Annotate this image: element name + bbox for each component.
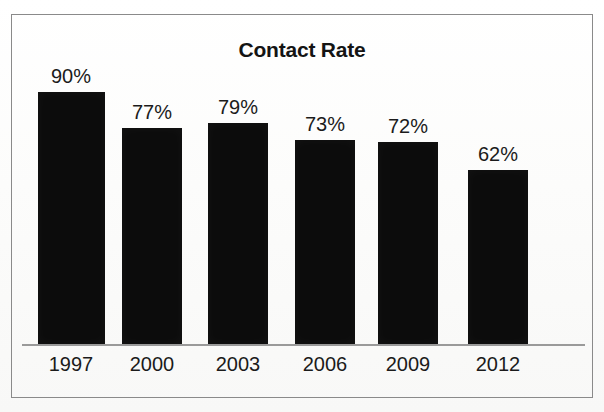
x-tick-label-2009: 2009 bbox=[363, 353, 453, 376]
bar-value-label-2000: 77% bbox=[107, 101, 197, 124]
x-tick-label-2003: 2003 bbox=[193, 353, 283, 376]
bar-value-label-2009: 72% bbox=[363, 115, 453, 138]
plot-area: Contact Rate 90% 77% 79% 73% 72% 62% 199… bbox=[0, 0, 604, 412]
x-tick-label-2012: 2012 bbox=[453, 353, 543, 376]
x-tick-label-2006: 2006 bbox=[280, 353, 370, 376]
bar-2012 bbox=[468, 170, 528, 344]
chart-screenshot: Contact Rate 90% 77% 79% 73% 72% 62% 199… bbox=[0, 0, 604, 412]
bar-1997 bbox=[38, 92, 105, 344]
chart-title: Contact Rate bbox=[0, 38, 604, 62]
bar-2000 bbox=[122, 128, 182, 344]
bar-value-label-2012: 62% bbox=[453, 143, 543, 166]
bar-2009 bbox=[378, 142, 438, 344]
bar-2003 bbox=[208, 123, 268, 344]
bar-value-label-1997: 90% bbox=[26, 65, 116, 88]
bar-value-label-2006: 73% bbox=[280, 113, 370, 136]
bar-2006 bbox=[295, 140, 355, 344]
x-axis-line bbox=[22, 344, 585, 346]
x-tick-label-2000: 2000 bbox=[107, 353, 197, 376]
x-tick-label-1997: 1997 bbox=[26, 353, 116, 376]
bar-value-label-2003: 79% bbox=[193, 96, 283, 119]
